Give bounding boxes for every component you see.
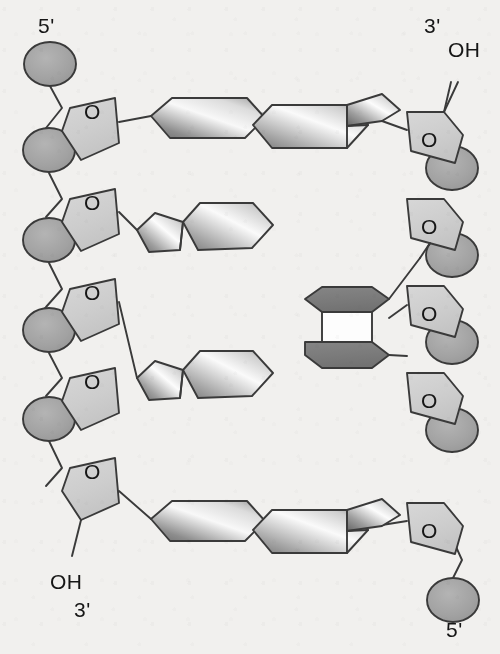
base-purine-hexagon	[183, 203, 273, 250]
base-purine-pentagon	[347, 94, 400, 126]
phosphate-circle	[427, 578, 479, 622]
dimer-glycosidic-bond	[389, 355, 407, 356]
fused-ring-bond	[347, 125, 368, 126]
base-purine-pentagon	[137, 361, 183, 400]
sugar-oxygen-label: O	[421, 128, 438, 152]
terminal-oh-bond-bottom-left	[72, 520, 81, 556]
base-pyrimidine-hexagon	[151, 501, 265, 541]
base-pyrimidine-hexagon	[151, 98, 265, 138]
thymine-dimer-lesion	[305, 258, 420, 368]
label-5-prime-bottom-right: 5'	[446, 618, 463, 642]
base-purine-hexagon	[183, 351, 273, 398]
dimer-base-upper-hexagon	[305, 287, 389, 312]
sugar-oxygen-label: O	[84, 281, 101, 305]
label-hydroxyl-bottom-left: OH	[50, 570, 83, 594]
sugar-oxygen-label: O	[84, 460, 101, 484]
base-purine-pentagon	[137, 213, 183, 252]
sugar-oxygen-label: O	[421, 302, 438, 326]
base-purine-pentagon	[347, 499, 400, 531]
sugar-oxygen-label: O	[84, 100, 101, 124]
structure-canvas	[0, 0, 500, 654]
fused-ring-bond	[347, 530, 368, 531]
terminal-oh-bond-top-right	[444, 82, 458, 112]
sugar-oxygen-label: O	[421, 519, 438, 543]
sugar-oxygen-label: O	[421, 215, 438, 239]
cyclobutane-ring	[322, 312, 372, 342]
sugar-oxygen-label: O	[84, 370, 101, 394]
label-5-prime-top-left: 5'	[38, 14, 55, 38]
dna-thymine-dimer-figure: 5' 3' OH OH 3' 5' O O O O O O O O O O	[0, 0, 500, 654]
label-3-prime-bottom-left: 3'	[74, 598, 91, 622]
sugar-oxygen-label: O	[421, 389, 438, 413]
phosphate-circle	[24, 42, 76, 86]
sugar-oxygen-label: O	[84, 191, 101, 215]
dimer-base-lower-hexagon	[305, 342, 389, 368]
label-hydroxyl-top-right: OH	[448, 38, 481, 62]
label-3-prime-top-right: 3'	[424, 14, 441, 38]
